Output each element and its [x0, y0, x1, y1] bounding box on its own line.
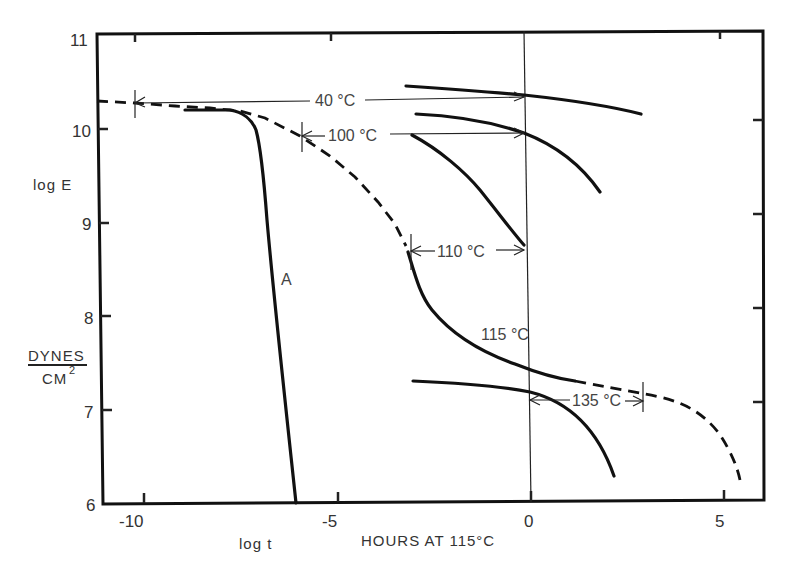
label-110c: 110 °C [437, 243, 485, 260]
curve-110c [412, 135, 524, 245]
y-tick-9: 9 [82, 215, 91, 234]
y-unit-exponent: 2 [69, 364, 76, 376]
master-curve-solid [408, 252, 575, 381]
curve-100c [416, 114, 600, 192]
y-unit-denominator: CM [42, 370, 67, 387]
y-unit-numerator: DYNES [28, 347, 85, 364]
shift-110c: 110 °C [411, 234, 524, 270]
y-tick-labels: 11 10 9 8 7 6 [70, 31, 95, 515]
x-axis-title-right: HOURS AT 115°C [361, 532, 495, 549]
x-axis-title-left: log t [239, 535, 272, 552]
curve-40c [406, 86, 641, 114]
x-tick-labels: -10 -5 0 5 [119, 512, 724, 531]
label-100c: 100 °C [328, 127, 377, 144]
x-tick-neg10: -10 [119, 512, 144, 531]
x-tick-neg5: -5 [322, 512, 337, 531]
y-axis-ticks-right [753, 120, 763, 402]
y-tick-8: 8 [84, 309, 93, 328]
y-tick-6: 6 [86, 496, 95, 515]
y-axis-unit: DYNES CM 2 [28, 347, 87, 387]
label-115c: 115 °C [481, 326, 529, 343]
y-tick-11: 11 [70, 31, 88, 50]
label-135c: 135 °C [572, 392, 621, 409]
y-tick-7: 7 [84, 403, 93, 422]
y-axis-title: log E [33, 176, 72, 193]
x-tick-5: 5 [715, 512, 724, 531]
shift-40c: 40 °C [135, 90, 524, 118]
label-40c: 40 °C [315, 92, 355, 109]
time-temperature-superposition-chart: 11 10 9 8 7 6 -10 -5 0 5 log E DYNES CM … [0, 0, 788, 576]
reference-line-x0 [524, 31, 531, 502]
curve-a [185, 110, 296, 503]
curve-a-label: A [281, 271, 292, 288]
y-tick-10: 10 [72, 122, 91, 141]
x-tick-0: 0 [524, 512, 533, 531]
